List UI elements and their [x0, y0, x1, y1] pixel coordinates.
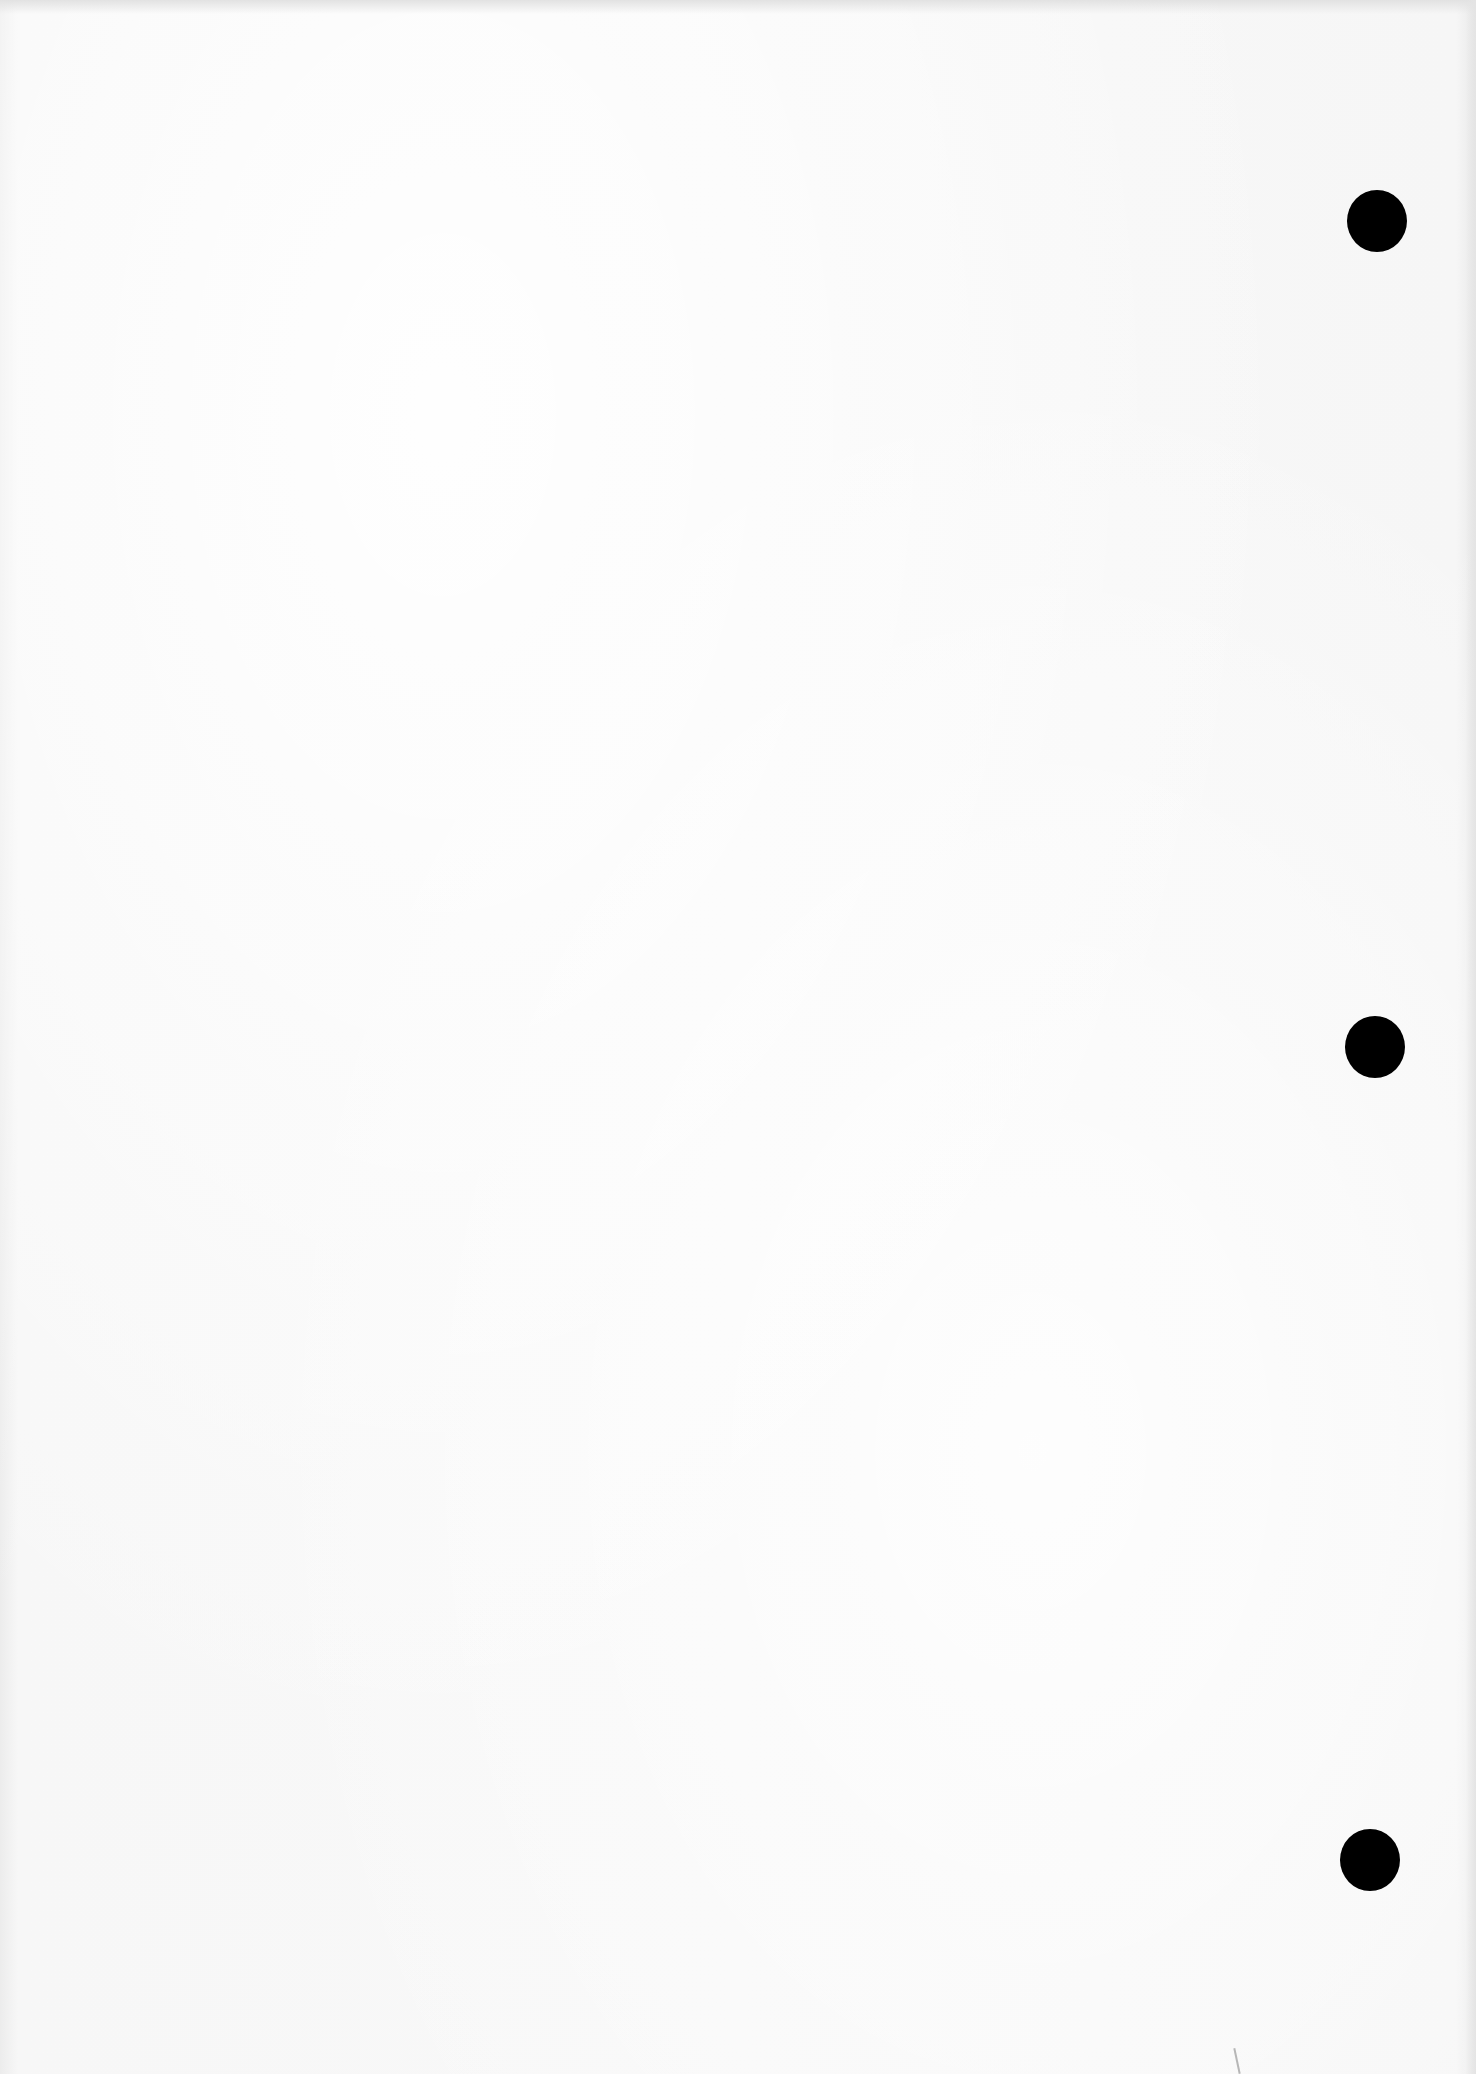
- pencil-mark: [1233, 2048, 1240, 2074]
- punch-hole-bottom: [1340, 1829, 1400, 1891]
- punch-hole-middle: [1345, 1016, 1405, 1078]
- scanned-page: [0, 0, 1476, 2074]
- scan-top-shadow: [0, 0, 1476, 14]
- punch-hole-top: [1347, 190, 1407, 252]
- scan-right-edge: [1466, 0, 1476, 2074]
